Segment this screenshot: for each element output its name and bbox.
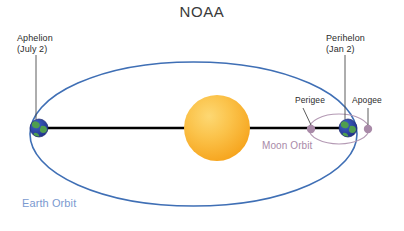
moon-perigee-dot-icon (307, 125, 315, 133)
aphelion-label: Aphelion(July 2) (17, 33, 53, 54)
orbit-diagram-figure: NOAA (0, 0, 404, 231)
earth-aphelion-icon (30, 119, 48, 139)
sun-icon (184, 95, 250, 161)
moon-apogee-dot-icon (364, 125, 372, 133)
apogee-label: Apogee (352, 95, 382, 105)
earth-orbit-label: Earth Orbit (22, 197, 76, 210)
aphelion-label-date: (July 2) (17, 44, 47, 54)
moon-orbit-label: Moon Orbit (262, 140, 312, 152)
earth-perihelion-icon (339, 119, 357, 139)
perihelion-label-name: Perihelon (326, 33, 365, 43)
perigee-leader-line (303, 108, 311, 125)
perihelion-label-date: (Jan 2) (326, 44, 355, 54)
perigee-label: Perigee (295, 95, 325, 105)
perihelion-label: Perihelon(Jan 2) (326, 33, 365, 54)
aphelion-label-name: Aphelion (17, 33, 53, 43)
